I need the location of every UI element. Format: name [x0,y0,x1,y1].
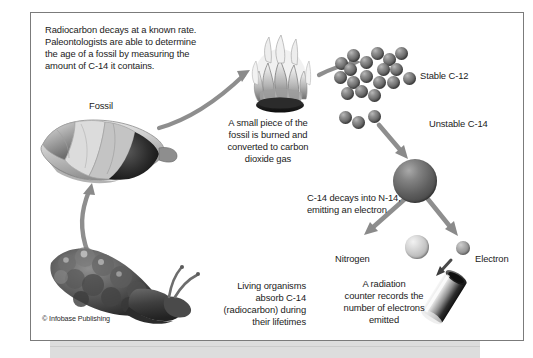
c12-sphere [377,63,390,76]
counter-caption: A radiation counter records the number o… [319,278,449,326]
diagram-canvas: Radiocarbon decays at a known rate. Pale… [0,0,533,358]
c12-sphere [341,87,354,100]
nitrogen-sphere [405,235,429,259]
c12-sphere [390,63,403,76]
electron-label: Electron [475,253,509,265]
shell-fossil-icon [35,108,181,186]
burn-caption: A small piece of the fossil is burned an… [194,117,342,165]
bottom-gray-band [50,340,480,358]
c12-sphere [347,49,360,62]
c12-sphere [360,56,373,69]
decay-caption: C-14 decays into N-14, emitting an elect… [307,192,437,216]
arrow-c14-to-nucleus [379,125,408,159]
diagram-frame: Radiocarbon decays at a known rate. Pale… [30,12,524,341]
c12-sphere [334,71,347,84]
unstable-c14-label: Unstable C-14 [429,118,488,130]
c12-sphere [355,85,368,98]
fossil-label: Fossil [89,100,113,112]
electron-sphere [456,241,470,255]
stable-c12-label: Stable C-12 [420,70,468,82]
intro-paragraph: Radiocarbon decays at a known rate. Pale… [45,24,260,72]
nitrogen-label: Nitrogen [335,253,370,265]
living-organisms-caption: Living organisms absorb C-14 (radiocarbo… [171,280,306,328]
c12-sphere [373,76,386,89]
c14-sphere [368,110,381,123]
c12-sphere [395,47,408,60]
c12-sphere [360,70,373,83]
c14-sphere [352,116,365,129]
c12-sphere [368,89,381,102]
c12-sphere [387,76,400,89]
copyright-notice: © Infobase Publishing [42,313,110,325]
c12-sphere [403,72,416,85]
